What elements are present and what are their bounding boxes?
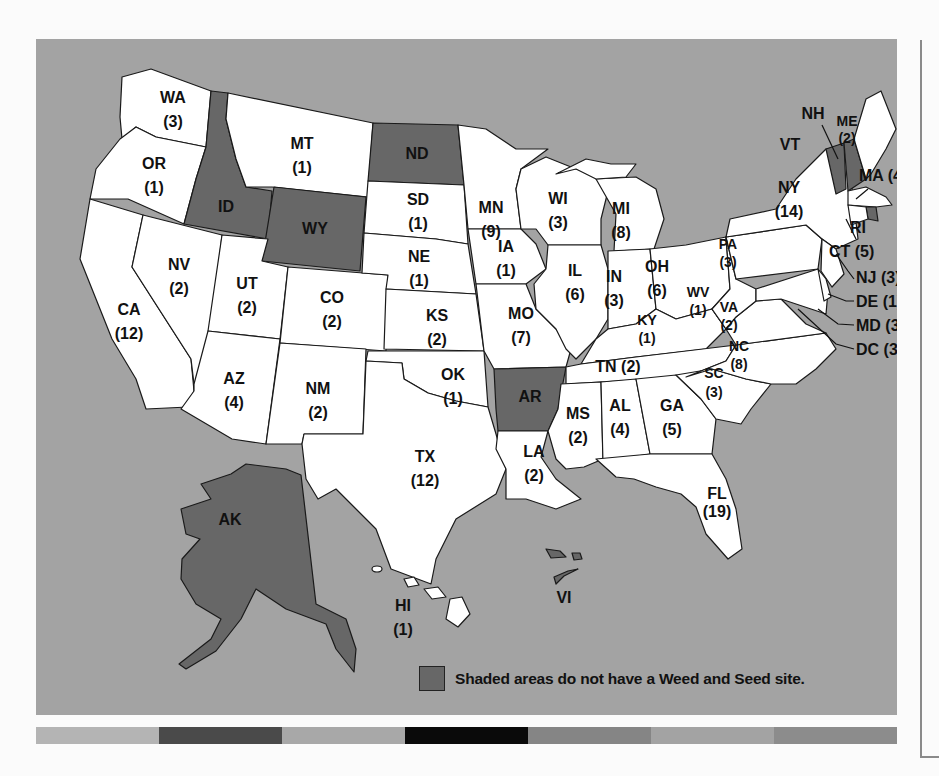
- legend: Shaded areas do not have a Weed and Seed…: [419, 666, 805, 691]
- label-id-code: ID: [218, 198, 234, 215]
- label-ok-code: OK: [441, 366, 465, 383]
- label-ar-code: AR: [518, 388, 542, 405]
- legend-text: Shaded areas do not have a Weed and Seed…: [455, 670, 805, 688]
- label-wi-code: WI: [548, 190, 568, 207]
- strip-segment: [528, 727, 651, 744]
- label-co-count: (2): [322, 313, 342, 330]
- label-vi: VI: [556, 589, 571, 606]
- label-me-code: ME: [837, 113, 858, 129]
- label-de: DE (1): [856, 293, 897, 310]
- label-ma: MA (4): [859, 167, 897, 184]
- label-ny-count: (14): [775, 203, 803, 220]
- label-az-code: AZ: [223, 370, 245, 387]
- label-ky-code: KY: [637, 312, 657, 328]
- label-il-code: IL: [568, 262, 582, 279]
- label-oh-count: (6): [647, 282, 667, 299]
- label-az-count: (4): [224, 394, 244, 411]
- label-la-count: (2): [524, 467, 544, 484]
- strip-segment: [405, 727, 528, 744]
- state-vi-3[interactable]: [554, 569, 578, 584]
- label-ut-code: UT: [236, 275, 258, 292]
- label-oh-code: OH: [645, 258, 669, 275]
- label-tn: TN (2): [595, 358, 640, 375]
- state-ak[interactable]: [179, 464, 356, 672]
- state-hi-1[interactable]: [372, 566, 382, 572]
- label-nj: NJ (3): [856, 269, 897, 286]
- label-ms-count: (2): [568, 429, 588, 446]
- label-mi-count: (8): [611, 224, 631, 241]
- label-tx-count: (12): [411, 472, 439, 489]
- label-fl-count: (19): [703, 503, 731, 520]
- label-ok-count: (1): [443, 390, 463, 407]
- label-nc-code: NC: [729, 338, 749, 354]
- label-nd-code: ND: [405, 145, 428, 162]
- label-la-code: LA: [523, 443, 545, 460]
- state-ma[interactable]: [848, 187, 892, 207]
- state-hi-4[interactable]: [446, 597, 470, 627]
- state-co[interactable]: [280, 267, 388, 351]
- label-ca-code: CA: [117, 301, 141, 318]
- state-hi-3[interactable]: [424, 587, 446, 599]
- label-va-code: VA: [720, 299, 738, 315]
- strip-segment: [774, 727, 897, 744]
- label-mo-code: MO: [508, 305, 534, 322]
- state-vi-2[interactable]: [572, 553, 582, 560]
- label-mi-code: MI: [612, 200, 630, 217]
- us-map: WA (3) OR (1) CA (12) ID NV (2) MT (1) W…: [36, 39, 897, 715]
- label-ut-count: (2): [237, 299, 257, 316]
- label-pa-count: (3): [719, 254, 736, 270]
- label-al-count: (4): [610, 421, 630, 438]
- strip-segment: [651, 727, 774, 744]
- label-ks-code: KS: [426, 307, 449, 324]
- label-or-count: (1): [144, 179, 164, 196]
- state-vi-1[interactable]: [546, 549, 566, 558]
- label-ak: AK: [218, 511, 242, 528]
- label-ky-count: (1): [638, 330, 655, 346]
- label-nm-code: NM: [306, 380, 331, 397]
- label-nm-count: (2): [308, 404, 328, 421]
- label-sd-count: (1): [408, 215, 428, 232]
- label-fl-code: FL: [707, 485, 727, 502]
- label-ia-count: (1): [496, 262, 516, 279]
- label-ri: RI: [850, 219, 866, 236]
- legend-swatch: [419, 666, 445, 691]
- label-al-code: AL: [609, 397, 631, 414]
- label-co-code: CO: [320, 289, 344, 306]
- label-wv-code: WV: [687, 284, 710, 300]
- label-hi-code: HI: [395, 597, 411, 614]
- label-nh: NH: [801, 105, 824, 122]
- label-wa-code: WA: [160, 89, 186, 106]
- label-ne-count: (1): [409, 272, 429, 289]
- label-ia-code: IA: [498, 238, 514, 255]
- label-ga-count: (5): [662, 421, 682, 438]
- strip-segment: [36, 727, 159, 744]
- label-sc-code: SC: [704, 365, 723, 381]
- label-nv-count: (2): [169, 280, 189, 297]
- label-mt-code: MT: [290, 135, 313, 152]
- label-wi-count: (3): [548, 214, 568, 231]
- label-il-count: (6): [565, 286, 585, 303]
- label-mo-count: (7): [511, 329, 531, 346]
- color-strip: [36, 727, 897, 744]
- strip-segment: [159, 727, 282, 744]
- label-mn-code: MN: [479, 199, 504, 216]
- strip-segment: [282, 727, 405, 744]
- label-wa-count: (3): [163, 113, 183, 130]
- label-ga-code: GA: [660, 397, 684, 414]
- label-in-count: (3): [604, 292, 624, 309]
- label-ne-code: NE: [408, 248, 431, 265]
- leader-de: [828, 294, 854, 301]
- label-nc-count: (8): [730, 356, 747, 372]
- side-rule: [920, 40, 922, 758]
- label-sd-code: SD: [407, 191, 429, 208]
- label-dc: DC (3): [856, 341, 897, 358]
- label-mt-count: (1): [292, 159, 312, 176]
- label-me-count: (2): [838, 130, 855, 146]
- label-sc-count: (3): [705, 384, 722, 400]
- label-or-code: OR: [142, 155, 166, 172]
- label-ct: CT (5): [829, 243, 874, 260]
- label-ms-code: MS: [566, 405, 590, 422]
- label-in-code: IN: [606, 268, 622, 285]
- map-panel: WA (3) OR (1) CA (12) ID NV (2) MT (1) W…: [36, 39, 897, 715]
- label-md: MD (3): [856, 317, 897, 334]
